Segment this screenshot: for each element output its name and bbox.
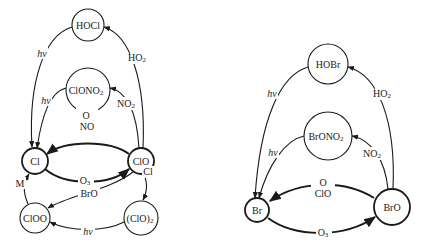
label-clo-to-cloo: BrO (80, 188, 97, 199)
edge-bro-to-hobr (348, 67, 393, 189)
chlorine-cycle: HOCl ClONO2 Cl ClO ClOO (ClO)2 hν HO2 hν… (14, 9, 158, 237)
label-clo2-to-cloo: hν (83, 226, 93, 237)
label-bro-to-br-clo: ClO (315, 188, 332, 199)
label-hocl-to-cl: hν (37, 48, 47, 59)
edge-hobr-to-br (255, 67, 308, 198)
edge-bro-to-brono2 (352, 136, 388, 189)
node-hobr-label: HOBr (316, 59, 341, 70)
node-br-label: Br (252, 205, 263, 216)
node-hocl-label: HOCl (76, 20, 100, 31)
label-hobr-to-br: hν (267, 88, 277, 99)
node-brono2-label: BrONO2 (308, 131, 344, 144)
label-clono2-to-cl: hν (41, 95, 51, 106)
node-clono2-label: ClONO2 (69, 85, 104, 98)
reaction-diagram: HOCl ClONO2 Cl ClO ClOO (ClO)2 hν HO2 hν… (0, 0, 425, 244)
label-clo-to-cl-no: NO (80, 121, 94, 132)
label-clo-to-clo2: Cl (143, 166, 153, 177)
label-clo-to-cl-o: O (82, 110, 89, 121)
node-clo2-label: (ClO)2 (127, 213, 154, 226)
node-cloo-label: ClOO (23, 213, 47, 224)
label-bro-to-br-o: O (319, 177, 326, 188)
edge-clo-to-cl (47, 144, 129, 155)
node-bro-label: BrO (383, 202, 400, 213)
label-brono2-to-br: hν (268, 147, 278, 158)
node-cl-label: Cl (30, 156, 40, 167)
bromine-cycle: HOBr BrONO2 Br BrO hν HO2 hν NO2 O ClO O… (245, 44, 410, 240)
label-cloo-to-cl: M (16, 178, 25, 189)
